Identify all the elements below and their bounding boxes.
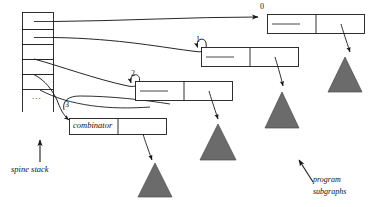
node-1-label: 1 <box>196 36 200 44</box>
node-2-label: 2 <box>131 70 135 78</box>
program-subgraphs-callout-arrow <box>299 160 313 182</box>
node-2-box <box>136 82 233 120</box>
program-subgraphs-label-line1: program <box>313 176 341 184</box>
node-0-label: 0 <box>260 3 264 11</box>
stack-ellipsis: ... <box>32 92 42 101</box>
diagram-canvas: 0 1 2 3 combinator ... spine stack progr… <box>0 0 381 207</box>
subgraph-triangle-4 <box>138 163 172 197</box>
edge-stack1-to-node1a <box>54 38 197 52</box>
subgraph-triangle-1 <box>328 57 362 92</box>
node-3-label: 3 <box>65 101 69 109</box>
subgraph-triangle-3 <box>200 124 236 160</box>
program-subgraphs-label-line2: subgraphs <box>313 188 346 196</box>
subgraph-triangle-2 <box>265 92 299 128</box>
edge-stack0-to-node0 <box>54 17 259 22</box>
node-1-box <box>202 48 299 87</box>
spine-stack-label: spine stack <box>11 165 49 174</box>
combinator-label: combinator <box>73 121 112 130</box>
node-0-box <box>268 15 365 53</box>
